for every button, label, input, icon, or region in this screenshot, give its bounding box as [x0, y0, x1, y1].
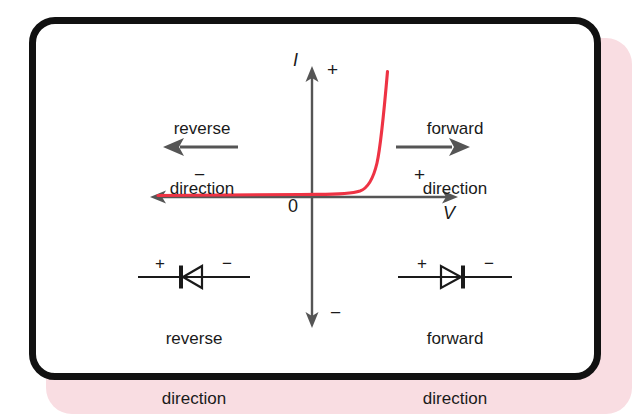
forward-direction-top-line1: forward: [391, 119, 519, 139]
reverse-direction-top-label: reverse direction: [138, 79, 266, 239]
diode-symbol-forward-icon: [398, 266, 512, 289]
reverse-symbol-minus-sign: −: [222, 254, 232, 274]
forward-direction-caption: forward direction: [391, 289, 519, 414]
i-axis-minus-sign: −: [330, 302, 341, 324]
reverse-direction-caption-line2: direction: [130, 389, 258, 409]
reverse-direction-top-line1: reverse: [138, 119, 266, 139]
origin-label: 0: [288, 196, 298, 217]
i-axis-plus-sign: +: [327, 59, 338, 81]
diode-iv-plot: [0, 0, 632, 414]
diode-iv-figure: I + − 0 V + − reverse direction forward …: [0, 0, 632, 414]
forward-direction-caption-line2: direction: [391, 389, 519, 409]
forward-direction-top-line2: direction: [391, 179, 519, 199]
reverse-direction-top-line2: direction: [138, 179, 266, 199]
reverse-symbol-plus-sign: +: [155, 254, 165, 274]
reverse-direction-caption: reverse direction: [130, 289, 258, 414]
forward-symbol-minus-sign: −: [484, 254, 494, 274]
reverse-direction-caption-line1: reverse: [130, 329, 258, 349]
forward-direction-top-label: forward direction: [391, 79, 519, 239]
forward-symbol-plus-sign: +: [417, 254, 427, 274]
forward-direction-caption-line1: forward: [391, 329, 519, 349]
i-axis-label: I: [293, 50, 298, 71]
